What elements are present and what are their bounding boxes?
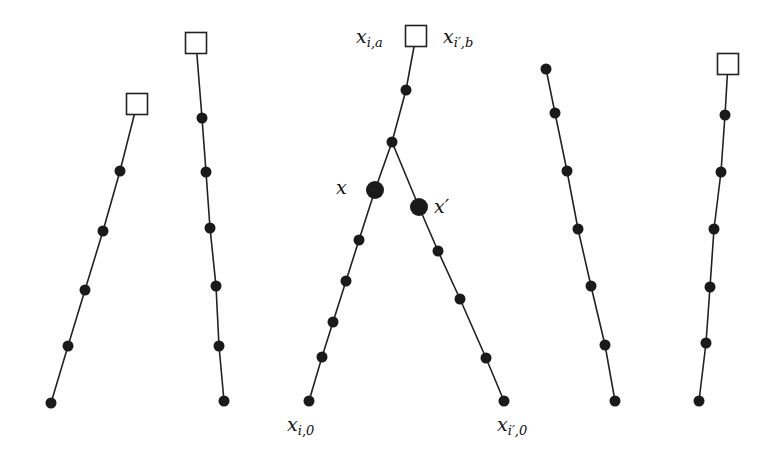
label-x-prime: x′ — [434, 195, 450, 217]
path-1-edge — [51, 104, 137, 403]
path-center-right-dot-2 — [481, 353, 492, 364]
path-1-dot-1 — [98, 226, 109, 237]
path-5-dot-3 — [586, 281, 597, 292]
path-1-dot-2 — [80, 285, 91, 296]
path-6-dot-1 — [716, 167, 727, 178]
path-5-edge — [546, 69, 615, 401]
path-2-dot-0 — [197, 113, 208, 124]
path-center-left-dot-3 — [317, 352, 328, 363]
path-center-trunk-dot-0 — [401, 85, 412, 96]
path-center-trunk-dot-1 — [387, 137, 398, 148]
path-5-dot-5 — [610, 396, 621, 407]
path-5-dot-0 — [550, 108, 561, 119]
path-diagram: xi,a xi′,b x x′ xi,0 xi′,0 — [0, 0, 773, 459]
label-x-iprime-b: xi′,b — [443, 25, 473, 50]
path-1-dot-4 — [46, 398, 57, 409]
path-center-trunk-square-node — [406, 26, 427, 47]
path-1-dot-3 — [63, 341, 74, 352]
path-center-right-dot-3 — [499, 396, 510, 407]
path-center-left-special-node — [366, 181, 384, 199]
path-center-left-dot-4 — [304, 396, 315, 407]
path-center-right-dot-0 — [433, 246, 444, 257]
path-2-dot-4 — [214, 341, 225, 352]
path-6-dot-3 — [705, 282, 716, 293]
path-5-dot-1 — [562, 166, 573, 177]
edges — [51, 36, 728, 403]
path-2-square-node — [186, 33, 207, 54]
label-x-i-a: xi,a — [356, 25, 383, 50]
nodes — [46, 26, 739, 409]
path-6-dot-4 — [701, 338, 712, 349]
path-6-dot-5 — [694, 396, 705, 407]
path-center-left-dot-0 — [354, 235, 365, 246]
label-x: x — [336, 176, 347, 198]
path-6-square-node — [718, 54, 739, 75]
path-2-dot-5 — [219, 396, 230, 407]
path-2-dot-2 — [205, 223, 216, 234]
path-6-dot-0 — [720, 110, 731, 121]
label-x-iprime-0: xi′,0 — [497, 413, 527, 438]
path-5-top-dot — [541, 64, 552, 75]
path-center-left-dot-2 — [328, 317, 339, 328]
path-2-dot-1 — [201, 167, 212, 178]
path-2-dot-3 — [211, 281, 222, 292]
path-1-square-node — [127, 94, 148, 115]
path-5-dot-2 — [573, 224, 584, 235]
path-center-right-dot-1 — [455, 294, 466, 305]
path-6-dot-2 — [709, 224, 720, 235]
path-1-dot-0 — [115, 166, 126, 177]
path-center-right-special-node — [410, 198, 428, 216]
path-5-dot-4 — [600, 340, 611, 351]
path-center-left-dot-1 — [341, 276, 352, 287]
label-x-i-0: xi,0 — [287, 413, 314, 438]
